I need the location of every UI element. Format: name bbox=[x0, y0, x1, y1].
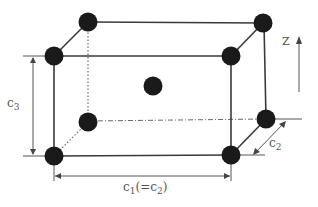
atom-front-bottom-left bbox=[45, 147, 64, 166]
dimension-c1 bbox=[54, 160, 231, 181]
hidden-edge-back-bottom bbox=[88, 119, 266, 121]
edge-front-bottom bbox=[54, 155, 231, 156]
atom-back-bottom-right bbox=[257, 110, 276, 129]
atom-front-bottom-right bbox=[222, 146, 241, 165]
atom-back-top-left bbox=[79, 13, 98, 32]
label-c2-sub: 2 bbox=[276, 142, 282, 152]
atom-front-top-right bbox=[222, 47, 241, 66]
label-c2: c2 bbox=[269, 137, 281, 152]
label-c3-base: c bbox=[7, 96, 14, 110]
atom-front-top-left bbox=[45, 47, 64, 66]
label-c3: c3 bbox=[7, 97, 19, 112]
atoms bbox=[45, 13, 276, 166]
atom-body-center bbox=[144, 77, 163, 96]
atom-back-bottom-left bbox=[79, 113, 98, 132]
edge-back-right-vertical bbox=[264, 23, 266, 119]
atom-back-top-right bbox=[254, 14, 273, 33]
dimension-c3 bbox=[23, 56, 50, 156]
label-c1-equals: (=c bbox=[135, 180, 156, 194]
label-c1-base: c bbox=[123, 180, 130, 194]
label-c2-base: c bbox=[269, 136, 276, 150]
label-z-axis: Z bbox=[282, 36, 290, 47]
label-c3-sub: 3 bbox=[14, 102, 20, 112]
unit-cell-diagram: c3 c1(=c2) c2 Z bbox=[0, 0, 318, 207]
label-c1-close: ) bbox=[163, 180, 168, 194]
edge-back-top bbox=[88, 22, 263, 23]
z-axis-arrow bbox=[296, 36, 302, 92]
label-c1: c1(=c2) bbox=[123, 181, 167, 196]
